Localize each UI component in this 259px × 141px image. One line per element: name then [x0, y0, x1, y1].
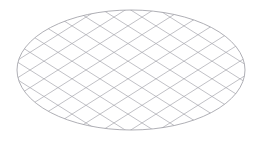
- hatch-line-ascending-13: [0, 0, 259, 141]
- hatch-line-descending-5: [0, 0, 259, 141]
- hatch-line-ascending-14: [0, 0, 259, 141]
- hatch-line-descending-14: [0, 0, 259, 141]
- hatch-line-ascending-16: [0, 0, 259, 141]
- hatch-line-descending-8: [0, 0, 259, 141]
- hatch-line-ascending-9: [0, 0, 259, 141]
- hatch-lines-descending: [0, 0, 259, 141]
- hatch-lines-ascending: [0, 0, 259, 141]
- hatch-line-descending-1: [0, 0, 259, 141]
- hatch-line-descending-12: [0, 0, 259, 141]
- hatch-line-ascending-10: [0, 0, 259, 141]
- hatch-line-descending-4: [0, 0, 259, 141]
- hatch-line-ascending-5: [0, 0, 259, 141]
- hatch-line-ascending-15: [0, 0, 259, 141]
- ellipse-hatch-figure: [0, 0, 259, 141]
- hatch-line-descending-9: [0, 0, 259, 141]
- hatch-line-descending-0: [0, 0, 259, 141]
- hatch-line-ascending-1: [0, 0, 259, 141]
- hatch-line-descending-2: [0, 0, 259, 141]
- hatch-line-ascending-6: [0, 0, 259, 141]
- hatch-line-descending-3: [0, 0, 259, 141]
- hatch-line-descending-11: [0, 0, 259, 141]
- hatch-line-ascending-4: [0, 0, 259, 141]
- hatch-line-descending-7: [0, 0, 259, 141]
- hatch-line-ascending-7: [0, 0, 259, 141]
- hatch-line-ascending-11: [0, 0, 259, 141]
- hatch-line-descending-16: [0, 0, 259, 141]
- hatch-line-descending-10: [0, 0, 259, 141]
- figure-canvas: [0, 0, 259, 141]
- hatch-line-ascending-12: [0, 0, 259, 141]
- hatch-line-ascending-3: [0, 0, 259, 141]
- hatch-line-ascending-2: [0, 0, 259, 141]
- hatch-line-ascending-0: [0, 0, 259, 141]
- hatch-line-descending-13: [0, 0, 259, 141]
- hatch-line-ascending-8: [0, 0, 259, 141]
- hatch-line-descending-6: [0, 0, 259, 141]
- hatch-line-descending-15: [0, 0, 259, 141]
